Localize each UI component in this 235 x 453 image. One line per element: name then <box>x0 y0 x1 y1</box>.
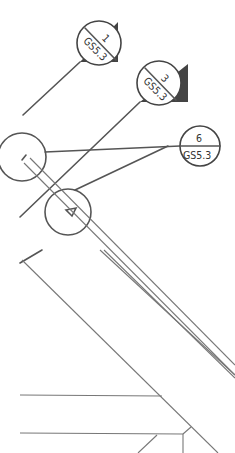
technical-drawing: 1 GS5.3 3 GS5.3 6 GS5.3 <box>0 0 235 453</box>
detail-circle-left <box>0 133 46 181</box>
callout-6: 6 GS5.3 <box>45 126 220 190</box>
callout-sheet: GS5.3 <box>183 149 211 161</box>
callout-number: 6 <box>196 132 202 144</box>
callout-3: 3 GS5.3 <box>20 61 188 217</box>
connection-marker <box>66 208 76 216</box>
callout-1: 1 GS5.3 <box>23 21 121 115</box>
connection-marker-left <box>22 155 26 160</box>
